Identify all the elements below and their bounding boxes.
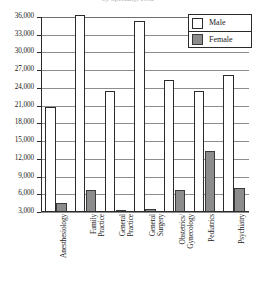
y-tick-label: 15,000: [15, 136, 34, 145]
legend-swatch-female: [192, 34, 203, 45]
legend-swatch-male: [192, 18, 203, 29]
y-tick-label: 12,000: [15, 154, 34, 163]
y-tick-label: 3,000: [18, 207, 34, 216]
legend-item-male[interactable]: Male: [189, 15, 251, 31]
x-tick-label: GeneralPractice: [119, 214, 135, 286]
x-tick-label: Anesthesiology: [60, 214, 68, 286]
gridline: [41, 212, 249, 213]
y-axis-labels: 36,00033,00030,00027,00024,00021,00018,0…: [0, 17, 41, 212]
y-tick-label: 30,000: [15, 47, 34, 56]
legend-item-female[interactable]: Female: [189, 31, 251, 47]
chart-legend: Male Female: [188, 14, 252, 48]
y-tick-label: 9,000: [18, 172, 34, 181]
chart-title: by Specialty, 1990: [0, 0, 256, 2]
y-tick-label: 6,000: [18, 189, 34, 198]
y-tick-label: 21,000: [15, 101, 34, 110]
y-tick-label: 36,000: [15, 12, 34, 21]
legend-label-male: Male: [209, 18, 225, 28]
x-tick-label: FamilyPractice: [90, 214, 106, 286]
x-tick-label: GeneralSurgery: [149, 214, 165, 286]
legend-label-female: Female: [209, 35, 233, 45]
x-tick-label: Pediatrics: [208, 214, 216, 286]
x-tick-label: Psychiatry: [238, 214, 246, 286]
x-tick-label: Obstetrics/Gynecology: [179, 214, 195, 286]
y-tick-label: 27,000: [15, 65, 34, 74]
y-tick-label: 18,000: [15, 118, 34, 127]
y-tick-label: 24,000: [15, 83, 34, 92]
y-tick-label: 33,000: [15, 30, 34, 39]
x-axis-labels: AnesthesiologyFamilyPracticeGeneralPract…: [41, 214, 249, 291]
